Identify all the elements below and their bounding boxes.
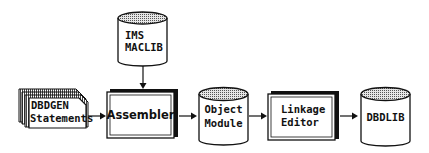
object-module-label-line2: Module bbox=[205, 117, 243, 129]
dbdgen-statements-stack: DBDGEN Statements bbox=[19, 89, 93, 128]
object-module-cylinder: Object Module bbox=[199, 88, 248, 146]
arrow-maclib-to-assembler bbox=[140, 66, 147, 89]
assembler-box: Assembler bbox=[106, 89, 178, 138]
linkage-editor-label-line1: Linkage bbox=[281, 103, 325, 115]
dbdgen-flow-diagram: IMS MACLIB DBDGEN Statements Assembler O… bbox=[0, 0, 429, 153]
dbdgen-label-line1: DBDGEN bbox=[31, 99, 69, 111]
dbdlib-label: DBDLIB bbox=[367, 111, 405, 123]
linkage-editor-box: Linkage Editor bbox=[268, 91, 339, 140]
dbdlib-cylinder: DBDLIB bbox=[361, 88, 410, 147]
linkage-editor-label-line2: Editor bbox=[281, 116, 319, 128]
object-module-label-line1: Object bbox=[205, 103, 243, 115]
arrow-object-module-to-linkage-editor bbox=[249, 113, 267, 120]
dbdgen-label-line2: Statements bbox=[30, 112, 93, 124]
arrow-linkage-editor-to-dbdlib bbox=[340, 113, 358, 120]
maclib-label-line2: MACLIB bbox=[125, 41, 163, 53]
arrow-assembler-to-object-module bbox=[179, 113, 197, 120]
ims-maclib-cylinder: IMS MACLIB bbox=[118, 12, 167, 66]
assembler-label: Assembler bbox=[106, 108, 174, 122]
maclib-label-line1: IMS bbox=[125, 29, 144, 41]
